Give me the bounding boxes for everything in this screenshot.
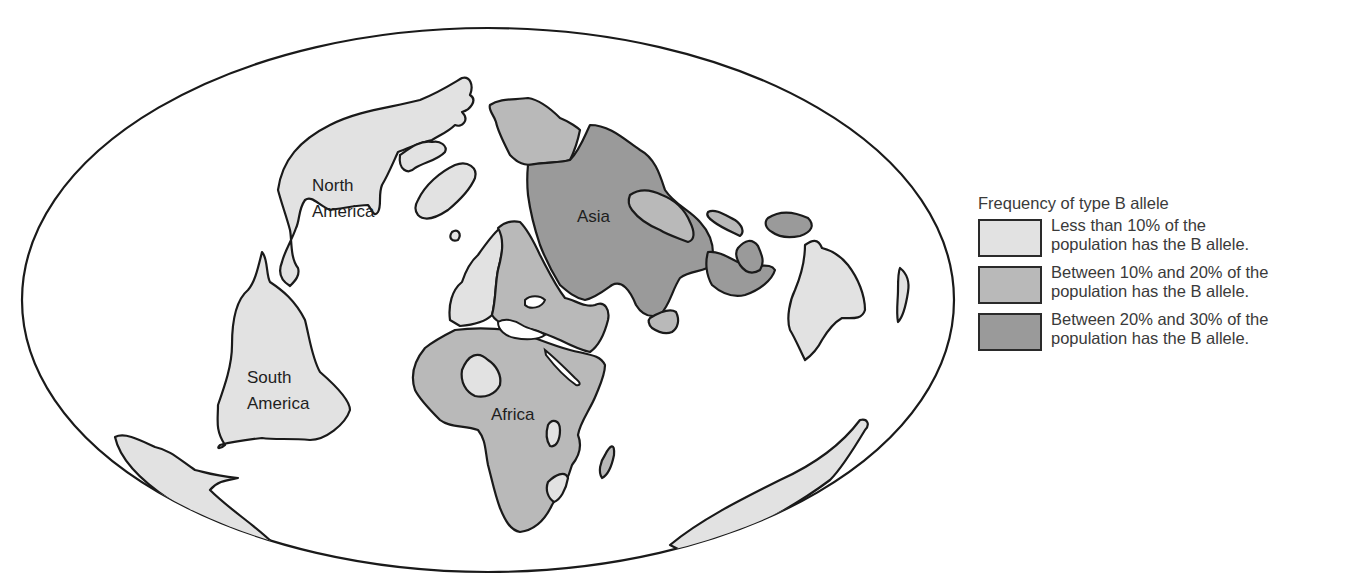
legend-item-high-line2: population has the B allele.: [1051, 329, 1268, 348]
label-north-america-1: North: [312, 176, 354, 195]
label-south-america-2: America: [247, 394, 310, 413]
region-east-africa-patch: [547, 421, 560, 446]
legend-swatch-low: [978, 219, 1042, 257]
world-map: North America Asia South America Africa: [0, 0, 970, 587]
legend-item-mid-line1: Between 10% and 20% of the: [1051, 263, 1268, 282]
label-africa: Africa: [491, 405, 535, 424]
region-iceland: [450, 231, 459, 241]
legend-item-mid: Between 10% and 20% of the population ha…: [978, 263, 1362, 304]
region-philippines: [766, 213, 812, 237]
legend-item-low-line2: population has the B allele.: [1051, 235, 1249, 254]
legend-title: Frequency of type B allele: [978, 193, 1362, 213]
label-asia: Asia: [577, 207, 611, 226]
label-south-america-1: South: [247, 368, 291, 387]
legend-swatch-mid: [978, 266, 1042, 304]
legend-item-low: Less than 10% of the population has the …: [978, 216, 1362, 257]
legend-swatch-high: [978, 313, 1042, 351]
legend-item-low-line1: Less than 10% of the: [1051, 216, 1249, 235]
legend: Frequency of type B allele Less than 10%…: [978, 193, 1362, 357]
legend-item-high: Between 20% and 30% of the population ha…: [978, 310, 1362, 351]
legend-item-high-line1: Between 20% and 30% of the: [1051, 310, 1268, 329]
label-north-america-2: America: [312, 202, 375, 221]
legend-item-mid-line2: population has the B allele.: [1051, 282, 1268, 301]
